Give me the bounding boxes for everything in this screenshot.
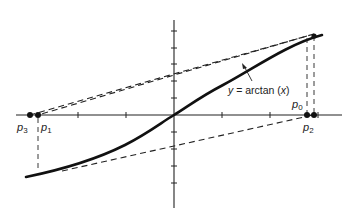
label-p3: p3 — [16, 121, 28, 135]
arctan-newton-diagram: p0 p2 p3 p1 y = arctan (x) — [0, 0, 358, 218]
tangent-line-p2 — [30, 34, 314, 115]
function-label: y = arctan (x) — [227, 84, 290, 96]
point-p0 — [304, 112, 310, 118]
tangent-line-p1 — [62, 115, 313, 171]
label-p2: p2 — [302, 121, 314, 135]
point-p2 — [311, 112, 317, 118]
point-p1 — [35, 112, 41, 118]
label-p0: p0 — [291, 98, 303, 112]
label-p1: p1 — [40, 121, 52, 135]
point-p3 — [27, 112, 33, 118]
curve-point-p0 — [311, 33, 316, 38]
arrowhead-icon — [242, 63, 247, 69]
